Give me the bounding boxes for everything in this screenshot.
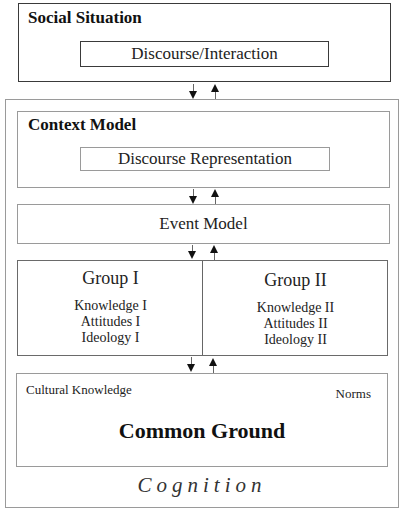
social-situation-box: Social Situation Discourse/Interaction [18,3,391,82]
cultural-knowledge-label: Cultural Knowledge [26,382,132,398]
context-model-box: Context Model Discourse Representation [17,111,390,188]
group-2-title: Group II [204,270,387,291]
group-2-panel: Group II Knowledge II Attitudes II Ideol… [204,261,387,355]
discourse-interaction-label: Discourse/Interaction [81,44,328,64]
cognition-title: Cognition [5,473,399,498]
arrow-down-icon [187,364,195,372]
arrow-down-icon [189,196,197,204]
norms-label: Norms [336,386,371,402]
arrow-down-icon [189,91,197,99]
arrow-up-icon [211,189,219,197]
group-1-ideology: Ideology I [18,330,203,346]
arrow-down-icon [188,251,196,259]
group-1-knowledge: Knowledge I [18,298,203,314]
discourse-representation-label: Discourse Representation [81,149,329,169]
discourse-representation-box: Discourse Representation [80,147,330,171]
event-model-label: Event Model [18,214,389,234]
group-2-ideology: Ideology II [204,332,387,348]
arrow-up-icon [209,358,217,366]
group-2-attitudes: Attitudes II [204,316,387,332]
discourse-interaction-box: Discourse/Interaction [80,41,329,67]
arrow-up-icon [211,84,219,92]
group-2-knowledge: Knowledge II [204,300,387,316]
groups-box: Group I Knowledge I Attitudes I Ideology… [17,260,388,356]
context-model-title: Context Model [28,115,136,135]
common-ground-title: Common Ground [17,418,387,444]
group-divider [202,261,203,355]
common-ground-box: Cultural Knowledge Norms Common Ground [16,373,388,467]
arrow-up-icon [210,245,218,253]
group-1-title: Group I [18,268,203,289]
event-model-box: Event Model [17,204,390,244]
group-1-attitudes: Attitudes I [18,314,203,330]
group-1-panel: Group I Knowledge I Attitudes I Ideology… [18,261,203,355]
social-situation-title: Social Situation [28,8,142,28]
